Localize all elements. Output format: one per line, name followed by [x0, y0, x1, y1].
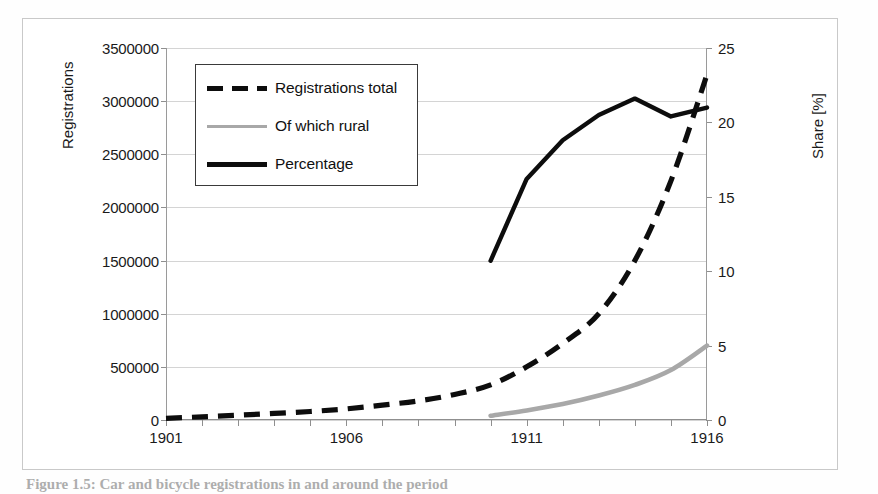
left-axis-tick-label: 500000	[110, 358, 159, 375]
right-axis-title: Share [%]	[809, 93, 826, 159]
right-axis-tick-label: 0	[718, 412, 726, 429]
series-percentage	[491, 99, 707, 261]
x-axis-tick-mark	[202, 420, 203, 426]
figure-frame: Registrations Share [%] 0500000100000015…	[22, 18, 838, 470]
x-axis-tick-label: 1906	[330, 429, 363, 446]
x-axis-tick-label: 1911	[511, 429, 543, 446]
legend-label: Registrations total	[275, 79, 397, 97]
plot-area: 0500000100000015000002000000250000030000…	[166, 48, 707, 420]
x-axis-tick-mark	[274, 420, 275, 426]
x-axis-tick-mark	[599, 420, 600, 426]
x-axis-tick-label: 1916	[690, 429, 723, 446]
x-axis-tick-mark	[238, 420, 239, 426]
legend-label: Percentage	[275, 155, 353, 173]
legend-item-of-which-rural: Of which rural	[196, 109, 417, 143]
x-axis-tick-mark	[671, 420, 672, 426]
right-axis-tick-label: 25	[718, 40, 735, 57]
x-axis-tick-mark	[491, 420, 492, 426]
figure-caption: Figure 1.5: Car and bicycle registration…	[26, 476, 856, 494]
legend-item-percentage: Percentage	[196, 147, 417, 181]
legend-label: Of which rural	[275, 117, 369, 135]
left-axis-tick-label: 2500000	[102, 146, 159, 163]
left-axis-tick-label: 0	[151, 412, 159, 429]
x-axis-tick-label: 1901	[149, 429, 182, 446]
x-axis-tick-mark	[382, 420, 383, 426]
left-axis-tick-label: 1500000	[102, 252, 159, 269]
x-axis-tick-mark	[418, 420, 419, 426]
gridline	[166, 420, 707, 421]
left-axis-tick-label: 3000000	[102, 93, 159, 110]
right-axis-tick-label: 20	[718, 114, 735, 131]
left-axis-title: Registrations	[59, 61, 76, 149]
x-axis-tick-mark	[310, 420, 311, 426]
x-axis-tick-mark	[346, 420, 347, 426]
x-axis-tick-mark	[563, 420, 564, 426]
right-axis-tick-label: 10	[718, 263, 735, 280]
chart-legend: Registrations total Of which rural Perce…	[195, 64, 418, 186]
x-axis-tick-mark	[707, 420, 708, 426]
right-axis-tick-label: 5	[718, 337, 726, 354]
legend-swatch-gray-line-icon	[207, 119, 267, 133]
x-axis-tick-mark	[635, 420, 636, 426]
left-axis-tick-label: 1000000	[102, 305, 159, 322]
x-axis-tick-mark	[455, 420, 456, 426]
scanned-page: Registrations Share [%] 0500000100000015…	[0, 0, 878, 494]
x-axis-tick-mark	[527, 420, 528, 426]
legend-swatch-solid-line-icon	[207, 157, 267, 171]
series-of-which-rural	[491, 346, 707, 416]
legend-item-registrations-total: Registrations total	[196, 71, 417, 105]
legend-swatch-dashed-line-icon	[207, 81, 267, 95]
left-axis-tick-label: 2000000	[102, 199, 159, 216]
right-axis-tick-label: 15	[718, 188, 735, 205]
left-axis-tick-label: 3500000	[102, 40, 159, 57]
